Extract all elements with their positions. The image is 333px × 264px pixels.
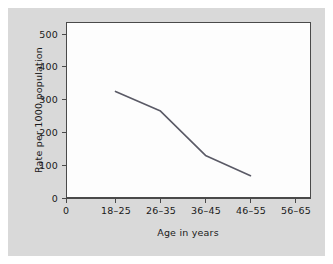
- plot-panel-background: [66, 22, 311, 198]
- x-tick-label-18-25: 18–25: [101, 205, 131, 216]
- x-tick-label-46-55: 46–55: [236, 205, 266, 216]
- x-tick-label-56-65: 56–65: [281, 205, 311, 216]
- x-tick-label-0: 0: [63, 205, 69, 216]
- x-tick-label-26-35: 26–35: [146, 205, 176, 216]
- y-axis-ticks: [62, 35, 66, 199]
- y-tick-label-0: 0: [52, 193, 58, 204]
- line-chart: 0 100 200 300 400 500 0 18–25 26–35 36–4…: [0, 0, 333, 264]
- y-tick-label-500: 500: [39, 29, 58, 40]
- x-tick-label-36-45: 36–45: [191, 205, 221, 216]
- y-axis-title: Rate per 1000 population: [33, 47, 44, 173]
- figure-container: 0 100 200 300 400 500 0 18–25 26–35 36–4…: [0, 0, 333, 264]
- x-axis-title: Age in years: [157, 227, 219, 238]
- chart-svg: 0 100 200 300 400 500 0 18–25 26–35 36–4…: [0, 0, 333, 264]
